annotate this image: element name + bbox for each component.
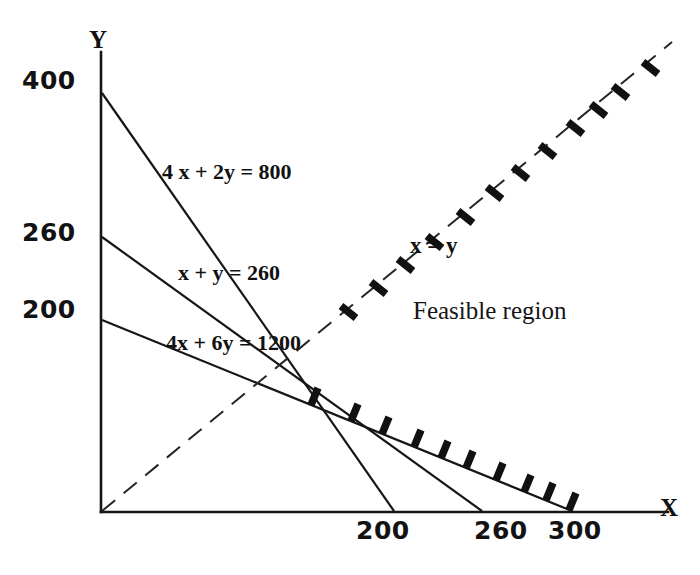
hatch-group-x-equals-y: [341, 62, 658, 318]
constraint-line-x-y-260: [102, 237, 482, 511]
x-tick-label-200: 200: [356, 516, 410, 545]
equation-label-4x-6y-1200: 4x + 6y = 1200: [166, 330, 301, 356]
x-tick-label-260: 260: [474, 516, 528, 545]
y-tick-label-400: 400: [22, 66, 76, 95]
y-axis-label: Y: [89, 26, 107, 54]
equation-label-x-y-260: x + y = 260: [178, 260, 280, 286]
plot-canvas: [0, 0, 700, 575]
y-tick-label-200: 200: [22, 295, 76, 324]
x-axis-label: X: [660, 494, 678, 522]
x-tick-label-300: 300: [548, 516, 602, 545]
y-tick-label-260: 260: [22, 218, 76, 247]
constraint-line-4x-2y-800: [102, 93, 394, 511]
feasible-region-label: Feasible region: [413, 297, 566, 325]
equation-label-4x-2y-800: 4 x + 2y = 800: [162, 159, 292, 185]
diagonal-label-x-equals-y: x = y: [410, 233, 458, 259]
linear-programming-figure: Y X 400 260 200 200 260 300 4 x + 2y = 8…: [0, 0, 700, 575]
